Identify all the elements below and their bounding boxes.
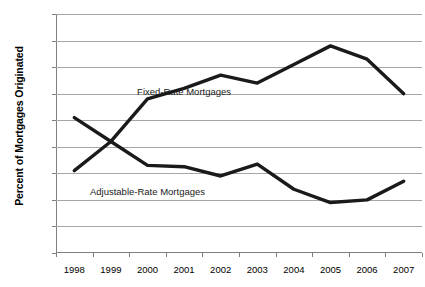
x-tick-mark	[385, 253, 386, 257]
x-tick-label: 2003	[247, 264, 268, 275]
x-tick-label: 2005	[320, 264, 341, 275]
x-tick-mark	[276, 253, 277, 257]
line-chart: Percent of Mortgages Originated 01020304…	[0, 0, 425, 287]
x-tick-mark	[239, 253, 240, 257]
x-tick-label: 2002	[210, 264, 231, 275]
series-label: Adjustable-Rate Mortgages	[90, 186, 205, 197]
x-tick-mark	[93, 253, 94, 257]
x-tick-mark	[166, 253, 167, 257]
x-tick-mark	[129, 253, 130, 257]
x-tick-mark	[422, 253, 423, 257]
x-tick-label: 1999	[100, 264, 121, 275]
series-label: Fixed-Rate Mortgages	[137, 86, 231, 97]
series-lines	[56, 14, 422, 253]
x-tick-label: 2004	[283, 264, 304, 275]
x-tick-label: 2000	[137, 264, 158, 275]
plot-area: 0102030405060708090 19981999200020012002…	[56, 14, 422, 253]
x-tick-label: 2001	[174, 264, 195, 275]
x-tick-mark	[56, 253, 57, 257]
x-tick-mark	[349, 253, 350, 257]
x-tick-label: 2007	[393, 264, 414, 275]
series-line	[74, 46, 403, 142]
x-tick-label: 1998	[64, 264, 85, 275]
x-tick-mark	[202, 253, 203, 257]
y-axis-title: Percent of Mortgages Originated	[13, 11, 25, 241]
x-tick-mark	[312, 253, 313, 257]
x-tick-label: 2006	[357, 264, 378, 275]
